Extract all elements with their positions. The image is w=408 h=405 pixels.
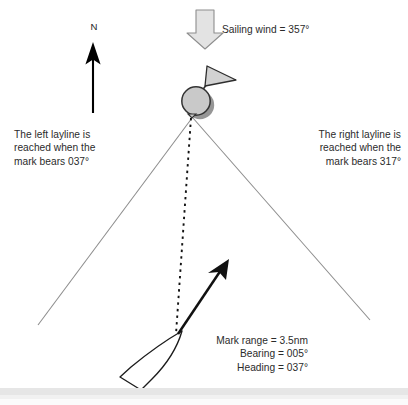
right-layline-line-1: The right layline is [318,129,401,140]
boat-hull-icon [120,331,182,390]
right-layline-line-2: reached when the [320,142,401,153]
boat-data-block: Mark range = 3.5nmBearing = 005°Heading … [186,334,308,374]
left-layline-description: The left layline isreached when themark … [14,128,134,168]
bottom-band [0,388,408,395]
left-layline-line-2: reached when the [14,142,95,153]
mark-flag-icon [205,66,236,86]
right-layline-line-3: mark bears 317° [326,156,401,167]
bearing-line [176,118,191,334]
north-label: N [80,20,108,33]
diagram-canvas: N Sailing wind = 357° The left layline i… [0,0,408,405]
bottom-band-edge [0,399,408,405]
left-layline-line-3: mark bears 037° [14,156,89,167]
north-arrow-icon [85,42,100,113]
race-mark-buoy-icon [182,66,236,119]
heading-arrow-head [208,259,229,280]
heading-value: Heading = 037° [237,362,308,373]
right-layline-description: The right layline isreached when themark… [297,128,401,168]
mark-range-value: Mark range = 3.5nm [216,335,308,346]
wind-direction-arrow-icon [187,10,223,49]
left-layline-line-1: The left layline is [14,129,90,140]
bearing-value: Bearing = 005° [240,348,308,359]
heading-arrow-shaft [178,270,221,334]
sailing-wind-label: Sailing wind = 357° [222,23,309,36]
